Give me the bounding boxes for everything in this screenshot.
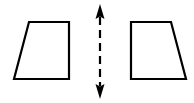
symmetry-diagram: [0, 0, 194, 103]
arrowhead-up-icon: [96, 4, 105, 19]
arrowhead-down-icon: [96, 84, 105, 99]
left-trapezoid: [14, 22, 69, 79]
right-trapezoid-mirrored: [131, 22, 186, 79]
symmetry-axis: [96, 4, 105, 99]
